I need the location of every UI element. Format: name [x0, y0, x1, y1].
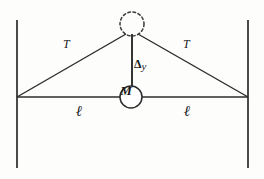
label-sag-displacement: Δy	[134, 58, 146, 72]
label-tension-right: T	[183, 38, 190, 50]
label-sag-delta: Δ	[134, 57, 142, 71]
label-tension-left: T	[63, 38, 70, 50]
label-length-right: ℓ	[184, 104, 190, 119]
label-mass: M	[120, 83, 132, 99]
label-length-left: ℓ	[76, 104, 82, 119]
string-right-tension	[138, 34, 248, 97]
string-left-tension	[17, 34, 126, 97]
label-sag-variable: y	[142, 60, 147, 72]
physics-diagram: T T Δy ℓ ℓ M	[0, 0, 264, 179]
ghost-mass-circle-icon	[120, 12, 144, 36]
